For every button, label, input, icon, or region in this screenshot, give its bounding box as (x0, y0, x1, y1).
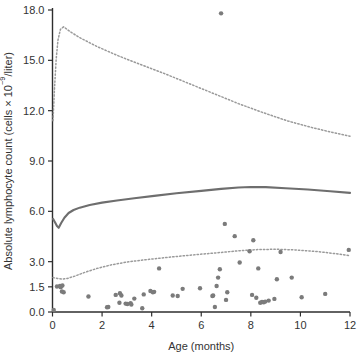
y-tick-label: 1.5 (29, 281, 44, 293)
data-point (213, 305, 217, 309)
y-axis-ticks: 0.01.53.06.09.012.015.018.0 (23, 4, 52, 318)
data-point (275, 277, 279, 281)
data-point (266, 298, 270, 302)
data-point (176, 294, 180, 298)
data-point (323, 292, 327, 296)
data-point (198, 286, 202, 290)
data-point (152, 290, 156, 294)
y-tick-label: 6.0 (29, 205, 44, 217)
data-point (211, 293, 215, 297)
x-tick-label: 8 (248, 319, 254, 331)
data-point (347, 248, 351, 252)
data-point (216, 275, 220, 279)
y-tick-label: 9.0 (29, 155, 44, 167)
y-axis-title: Absolute lymphocyte count (cells × 10−9/… (0, 52, 14, 270)
x-tick-label: 0 (49, 319, 55, 331)
data-point (214, 284, 218, 288)
y-tick-label: 12.0 (23, 105, 44, 117)
x-axis-ticks: 024681012 (49, 312, 356, 331)
data-point (180, 287, 184, 291)
data-point (251, 238, 255, 242)
data-point (290, 275, 294, 279)
data-point (157, 266, 161, 270)
data-point (256, 266, 260, 270)
data-point (119, 293, 123, 297)
data-point (254, 296, 258, 300)
axis-layer (53, 8, 351, 312)
chart-container: 0.01.53.06.09.012.015.018.0 024681012 Ag… (0, 0, 360, 354)
lymphocyte-count-scatter-plot: 0.01.53.06.09.012.015.018.0 024681012 Ag… (0, 0, 360, 354)
data-point (117, 301, 121, 305)
data-point (171, 293, 175, 297)
data-point (61, 290, 65, 294)
y-tick-label: 15.0 (23, 54, 44, 66)
data-point (142, 292, 146, 296)
data-point (86, 294, 90, 298)
y-tick-label: 18.0 (23, 4, 44, 16)
percentile-curve (53, 27, 350, 136)
data-point (106, 305, 110, 309)
data-point (219, 11, 223, 15)
data-point (299, 295, 303, 299)
data-point (237, 260, 241, 264)
x-tick-label: 12 (344, 319, 356, 331)
data-point (52, 308, 56, 312)
data-point (233, 234, 237, 238)
y-tick-label: 0.0 (29, 306, 44, 318)
data-point (148, 289, 152, 293)
x-tick-label: 4 (149, 319, 155, 331)
data-point (140, 306, 144, 310)
percentile-curve (53, 249, 350, 279)
data-point (114, 293, 118, 297)
reference-curves (53, 27, 350, 279)
x-tick-label: 2 (99, 319, 105, 331)
x-tick-label: 6 (198, 319, 204, 331)
data-point (247, 249, 251, 253)
data-point (60, 283, 64, 287)
data-point (250, 293, 254, 297)
y-tick-label: 3.0 (29, 256, 44, 268)
data-point (278, 250, 282, 254)
data-point (225, 290, 229, 294)
data-point (129, 302, 133, 306)
median-curve (53, 187, 350, 228)
data-point (218, 267, 222, 271)
data-point (272, 297, 276, 301)
data-points (52, 11, 351, 312)
x-axis-title: Age (months) (168, 340, 234, 352)
data-point (223, 222, 227, 226)
x-tick-label: 10 (294, 319, 306, 331)
data-point (132, 296, 136, 300)
data-point (224, 298, 228, 302)
